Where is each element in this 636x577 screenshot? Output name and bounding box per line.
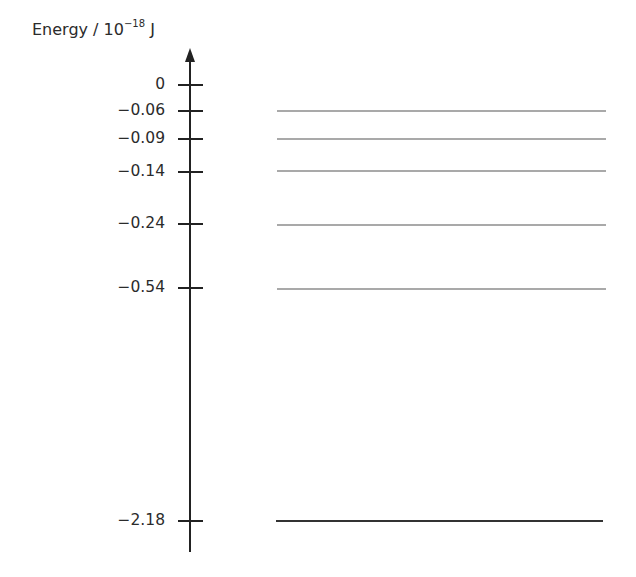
energy-level-line	[277, 138, 606, 140]
y-tick	[178, 110, 203, 112]
ground-state-line	[276, 520, 603, 522]
energy-level-line	[277, 170, 606, 172]
energy-level-line	[277, 288, 606, 290]
y-tick	[178, 223, 203, 225]
y-tick	[178, 287, 203, 289]
y-axis-title-exponent: −18	[124, 18, 145, 29]
y-tick-label: −0.14	[118, 162, 166, 180]
y-tick-label: −0.54	[118, 278, 166, 296]
y-axis-title-unit: J	[145, 20, 155, 39]
y-axis-line	[189, 56, 191, 552]
y-tick-label: −0.06	[118, 101, 166, 119]
y-tick	[178, 520, 203, 522]
y-axis-title: Energy / 10−18 J	[32, 20, 155, 39]
y-tick-label: 0	[155, 75, 165, 93]
y-tick-label: −2.18	[118, 511, 166, 529]
y-tick	[178, 171, 203, 173]
energy-level-line	[277, 110, 606, 112]
y-tick	[178, 84, 203, 86]
y-tick-label: −0.09	[118, 129, 166, 147]
y-tick-label: −0.24	[118, 214, 166, 232]
y-axis-title-prefix: Energy / 10	[32, 20, 124, 39]
energy-level-line	[277, 224, 606, 226]
y-tick	[178, 138, 203, 140]
